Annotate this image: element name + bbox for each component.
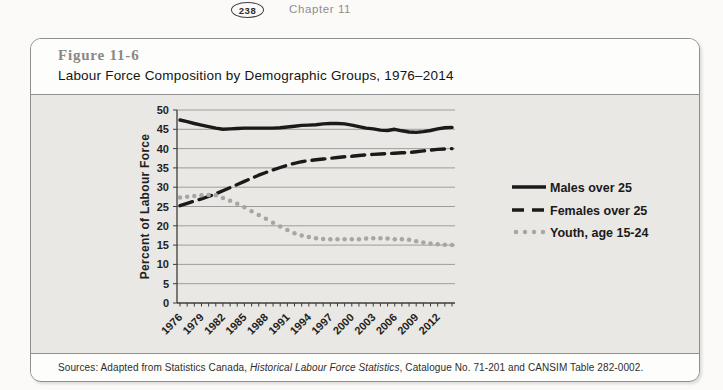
y-tick-label: 0 [163, 297, 169, 309]
y-tick-label: 10 [157, 258, 169, 270]
x-tick-label: 2000 [330, 311, 356, 337]
figure-header: Figure 11-6 Labour Force Composition by … [31, 39, 699, 95]
y-axis: 05101520253035404550 [157, 104, 455, 309]
sources-text-prefix: Sources: Adapted from Statistics Canada, [58, 362, 250, 373]
legend-marker-dotted [532, 230, 537, 235]
x-tick-label: 2006 [373, 311, 399, 337]
series-youth-age-15-24 [178, 193, 455, 248]
x-tick-label: 1994 [287, 310, 313, 336]
figure-title: Labour Force Composition by Demographic … [58, 68, 699, 83]
y-tick-label: 40 [157, 143, 169, 155]
x-tick-label: 2012 [416, 311, 442, 337]
legend-label: Females over 25 [550, 204, 647, 218]
legend-label: Males over 25 [550, 181, 632, 195]
y-tick-label: 50 [157, 104, 169, 116]
y-tick-label: 20 [157, 220, 169, 232]
chart-panel: 05101520253035404550Percent of Labour Fo… [31, 95, 699, 353]
x-tick-label: 1988 [245, 311, 271, 337]
textbook-page: 238 Chapter 11 Figure 11-6 Labour Force … [0, 0, 723, 390]
x-tick-label: 1976 [159, 311, 185, 337]
x-axis: 1976197919821985198819911994199720002003… [159, 303, 452, 337]
sources-text-suffix: , Catalogue No. 71-201 and CANSIM Table … [400, 362, 644, 373]
page-number-badge: 238 [231, 2, 264, 18]
figure-number: Figure 11-6 [58, 47, 699, 64]
legend-marker-dotted [514, 230, 519, 235]
y-tick-label: 15 [157, 239, 169, 251]
y-tick-label: 35 [157, 162, 169, 174]
sources-note: Sources: Adapted from Statistics Canada,… [31, 353, 699, 380]
series-females-over-25 [180, 149, 452, 206]
legend-marker-dotted [523, 230, 528, 235]
x-tick-label: 1991 [266, 311, 292, 337]
labour-force-line-chart: 05101520253035404550Percent of Labour Fo… [31, 95, 700, 353]
x-tick-label: 1997 [309, 311, 335, 337]
legend-label: Youth, age 15-24 [550, 226, 648, 240]
legend-marker-dotted [541, 230, 546, 235]
sources-text-italic: Historical Labour Force Statistics [250, 362, 400, 373]
x-tick-label: 1982 [202, 311, 228, 337]
y-tick-label: 25 [157, 201, 169, 213]
y-tick-label: 30 [157, 181, 169, 193]
x-tick-label: 2003 [352, 311, 378, 337]
x-tick-label: 2009 [395, 311, 421, 337]
chapter-label: Chapter 11 [289, 3, 351, 15]
legend: Males over 25Females over 25Youth, age 1… [512, 181, 648, 240]
x-tick-label: 1979 [180, 311, 206, 337]
figure-box: Figure 11-6 Labour Force Composition by … [30, 38, 700, 382]
y-tick-label: 5 [163, 278, 169, 290]
series-males-over-25 [180, 120, 452, 132]
y-axis-title: Percent of Labour Force [138, 134, 152, 280]
y-tick-label: 45 [157, 123, 169, 135]
x-tick-label: 1985 [223, 311, 249, 337]
